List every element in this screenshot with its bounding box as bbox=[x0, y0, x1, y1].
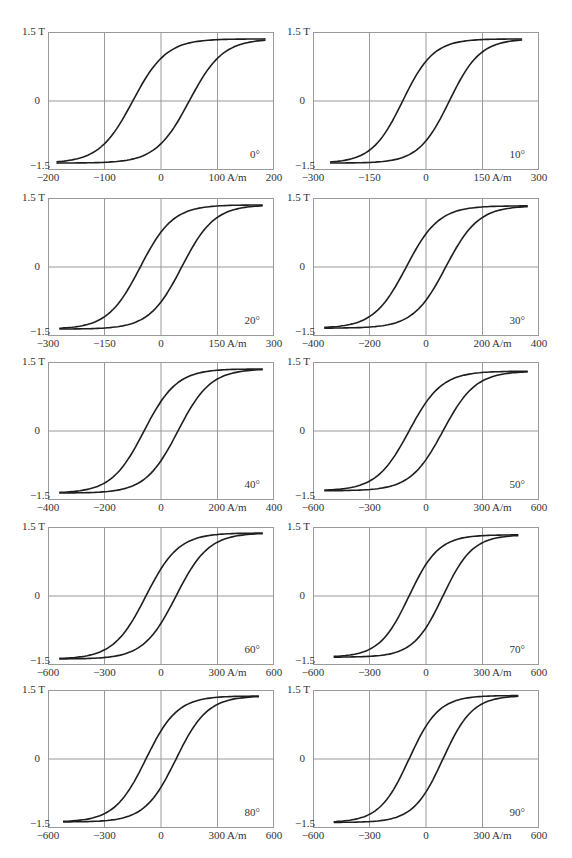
chart-panel-2: 1.5 T0−1.5−300−1500150 A/m30020° bbox=[48, 198, 274, 336]
y-label-bottom: −1.5 bbox=[295, 490, 315, 501]
x-tick-label: −600 bbox=[302, 667, 325, 678]
angle-label: 80° bbox=[245, 806, 260, 818]
y-label-top: 1.5 T bbox=[22, 521, 45, 532]
y-label-bottom: −1.5 bbox=[30, 160, 50, 171]
y-label-zero: 0 bbox=[35, 425, 41, 436]
angle-label: 0° bbox=[250, 148, 260, 160]
chart-panel-4: 1.5 T0−1.5−400−2000200 A/m40040° bbox=[48, 362, 274, 500]
x-tick-label: 600 bbox=[531, 502, 548, 513]
angle-label: 90° bbox=[510, 806, 525, 818]
plot-area bbox=[313, 362, 539, 500]
x-tick-label: 400 bbox=[266, 502, 283, 513]
plot-area bbox=[48, 198, 274, 336]
x-tick-label: −300 bbox=[93, 667, 116, 678]
angle-label: 40° bbox=[245, 478, 260, 490]
x-tick-label: −300 bbox=[37, 338, 60, 349]
plot-area bbox=[48, 690, 274, 828]
y-label-bottom: −1.5 bbox=[295, 326, 315, 337]
plot-area bbox=[313, 32, 539, 170]
y-label-top: 1.5 T bbox=[287, 684, 310, 695]
plot-area bbox=[48, 32, 274, 170]
y-label-zero: 0 bbox=[300, 425, 306, 436]
chart-panel-9: 1.5 T0−1.5−600−3000300 A/m60090° bbox=[313, 690, 539, 828]
x-tick-label: −200 bbox=[358, 338, 381, 349]
x-tick-label: −600 bbox=[302, 830, 325, 841]
y-label-zero: 0 bbox=[300, 95, 306, 106]
y-label-bottom: −1.5 bbox=[30, 490, 50, 501]
x-tick-label: −300 bbox=[93, 830, 116, 841]
x-tick-label: 300 A/m bbox=[208, 667, 246, 678]
x-tick-label: 300 A/m bbox=[208, 830, 246, 841]
plot-area bbox=[313, 690, 539, 828]
x-tick-label: 300 bbox=[266, 338, 283, 349]
y-label-top: 1.5 T bbox=[22, 684, 45, 695]
x-tick-label: −400 bbox=[37, 502, 60, 513]
chart-panel-8: 1.5 T0−1.5−600−3000300 A/m60080° bbox=[48, 690, 274, 828]
angle-label: 30° bbox=[510, 314, 525, 326]
x-tick-label: −100 bbox=[93, 172, 116, 183]
y-label-top: 1.5 T bbox=[287, 521, 310, 532]
x-tick-label: 600 bbox=[266, 667, 283, 678]
x-tick-label: −300 bbox=[358, 830, 381, 841]
x-tick-label: 200 bbox=[266, 172, 283, 183]
plot-area bbox=[313, 527, 539, 665]
x-tick-label: 300 A/m bbox=[473, 502, 511, 513]
y-label-bottom: −1.5 bbox=[30, 326, 50, 337]
x-tick-label: 0 bbox=[423, 502, 429, 513]
y-label-bottom: −1.5 bbox=[30, 818, 50, 829]
plot-area bbox=[48, 527, 274, 665]
y-label-bottom: −1.5 bbox=[30, 655, 50, 666]
x-tick-label: −200 bbox=[37, 172, 60, 183]
y-label-bottom: −1.5 bbox=[295, 160, 315, 171]
chart-panel-1: 1.5 T0−1.5−300−1500150 A/m30010° bbox=[313, 32, 539, 170]
x-tick-label: −400 bbox=[302, 338, 325, 349]
plot-area bbox=[48, 362, 274, 500]
angle-label: 70° bbox=[510, 643, 525, 655]
chart-panel-5: 1.5 T0−1.5−600−3000300 A/m60050° bbox=[313, 362, 539, 500]
x-tick-label: −200 bbox=[93, 502, 116, 513]
y-label-zero: 0 bbox=[35, 590, 41, 601]
x-tick-label: 0 bbox=[158, 667, 164, 678]
angle-label: 10° bbox=[510, 148, 525, 160]
x-tick-label: 0 bbox=[423, 338, 429, 349]
y-label-top: 1.5 T bbox=[287, 192, 310, 203]
plot-area bbox=[313, 198, 539, 336]
x-tick-label: 300 A/m bbox=[473, 830, 511, 841]
x-tick-label: 150 A/m bbox=[208, 338, 246, 349]
x-tick-label: 0 bbox=[423, 667, 429, 678]
x-tick-label: −300 bbox=[358, 667, 381, 678]
x-tick-label: 300 bbox=[531, 172, 548, 183]
y-label-zero: 0 bbox=[300, 261, 306, 272]
x-tick-label: −600 bbox=[302, 502, 325, 513]
x-tick-label: 0 bbox=[158, 338, 164, 349]
x-tick-label: 150 A/m bbox=[473, 172, 511, 183]
chart-panel-0: 1.5 T0−1.5−200−1000100 A/m2000° bbox=[48, 32, 274, 170]
x-tick-label: 300 A/m bbox=[473, 667, 511, 678]
y-label-zero: 0 bbox=[300, 590, 306, 601]
y-label-top: 1.5 T bbox=[22, 192, 45, 203]
x-tick-label: 0 bbox=[158, 830, 164, 841]
x-tick-label: 200 A/m bbox=[208, 502, 246, 513]
y-label-top: 1.5 T bbox=[287, 26, 310, 37]
y-label-top: 1.5 T bbox=[22, 356, 45, 367]
x-tick-label: −150 bbox=[93, 338, 116, 349]
chart-panel-3: 1.5 T0−1.5−400−2000200 A/m40030° bbox=[313, 198, 539, 336]
x-tick-label: −300 bbox=[302, 172, 325, 183]
x-tick-label: −600 bbox=[37, 830, 60, 841]
x-tick-label: 600 bbox=[531, 667, 548, 678]
x-tick-label: 0 bbox=[158, 502, 164, 513]
x-tick-label: 600 bbox=[266, 830, 283, 841]
chart-panel-6: 1.5 T0−1.5−600−3000300 A/m60060° bbox=[48, 527, 274, 665]
y-label-bottom: −1.5 bbox=[295, 818, 315, 829]
y-label-zero: 0 bbox=[35, 95, 41, 106]
y-label-zero: 0 bbox=[35, 753, 41, 764]
angle-label: 60° bbox=[245, 643, 260, 655]
x-tick-label: 400 bbox=[531, 338, 548, 349]
y-label-top: 1.5 T bbox=[22, 26, 45, 37]
y-label-top: 1.5 T bbox=[287, 356, 310, 367]
y-label-bottom: −1.5 bbox=[295, 655, 315, 666]
y-label-zero: 0 bbox=[35, 261, 41, 272]
angle-label: 50° bbox=[510, 478, 525, 490]
x-tick-label: 200 A/m bbox=[473, 338, 511, 349]
x-tick-label: −600 bbox=[37, 667, 60, 678]
